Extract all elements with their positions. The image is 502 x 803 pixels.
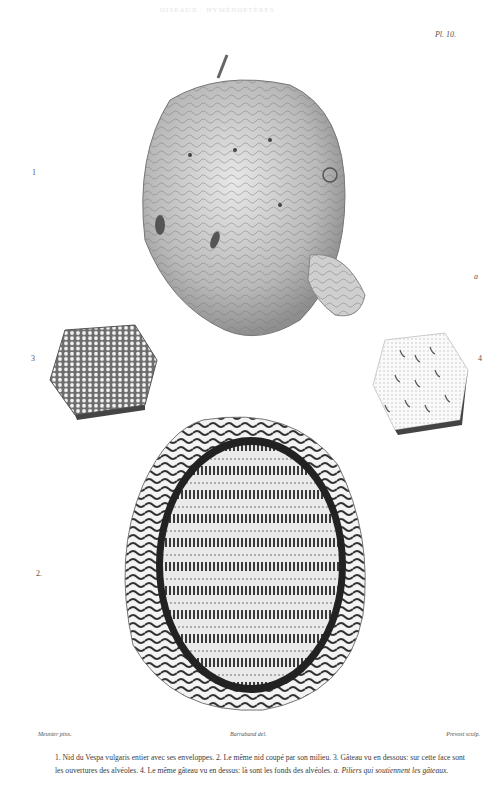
- caption-item-2: 2. Le même nid coupé par son milieu.: [216, 753, 331, 762]
- plate-number: Pl. 10.: [435, 30, 456, 39]
- figure-1-label: 1: [32, 168, 36, 177]
- caption-note-a: a. Piliers qui soutiennent les gâteaux.: [334, 766, 449, 775]
- credit-draughtsman: Meunier pinx.: [38, 731, 72, 737]
- figure-a-label: a: [474, 272, 478, 281]
- figure-3-label: 3: [31, 354, 35, 363]
- figure-2-nest-cross-section: [113, 405, 388, 720]
- plate-header: OISEAUX · HYMÉNOPTÈRES: [160, 6, 275, 14]
- credit-lithographer: Barraband del.: [230, 731, 267, 737]
- plate-caption: 1. Nid du Vespa vulgaris entier avec ses…: [55, 751, 465, 777]
- credit-engraver: Prevost sculp.: [446, 731, 480, 737]
- figure-4-label: 4: [478, 354, 482, 363]
- caption-item-1: 1. Nid du Vespa vulgaris entier avec ses…: [55, 753, 214, 762]
- caption-item-4: 4. Le même gâteau vu en dessus: là sont …: [140, 766, 332, 775]
- figure-2-label: 2.: [36, 569, 42, 578]
- figure-1-nest-exterior: [130, 45, 380, 350]
